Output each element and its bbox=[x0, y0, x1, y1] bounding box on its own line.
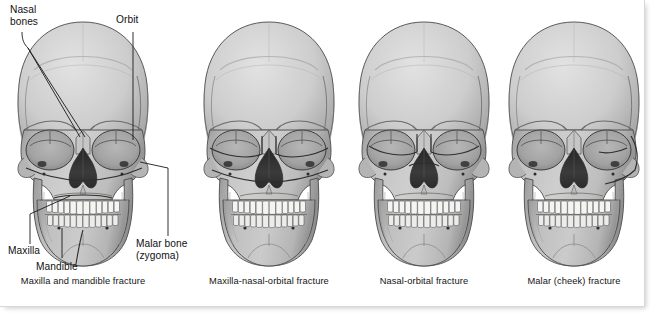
facial-fracture-figure: Maxilla and mandible fracture Maxilla-na… bbox=[0, 0, 661, 328]
panel-malar-cheek-fracture: Malar (cheek) fracture bbox=[495, 0, 653, 307]
panel-caption-3: Nasal-orbital fracture bbox=[345, 276, 503, 287]
panel-nasal-orbital-fracture: Nasal-orbital fracture bbox=[345, 0, 503, 307]
label-malar-bone-zygoma: Malar bone (zygoma) bbox=[136, 238, 187, 262]
label-orbit: Orbit bbox=[116, 14, 138, 26]
panel-caption-4: Malar (cheek) fracture bbox=[495, 276, 653, 287]
label-nasal-bones: Nasal bones bbox=[10, 4, 38, 28]
panel-caption-2: Maxilla-nasal-orbital fracture bbox=[190, 276, 348, 287]
skull-illustration-2 bbox=[190, 18, 348, 268]
skull-illustration-4 bbox=[495, 18, 653, 268]
skull-illustration-3 bbox=[345, 18, 503, 268]
skull-diagram bbox=[345, 18, 503, 268]
panel-caption-1: Maxilla and mandible fracture bbox=[4, 276, 162, 287]
label-mandible: Mandible bbox=[36, 261, 78, 273]
skull-diagram bbox=[495, 18, 653, 268]
skull-diagram bbox=[190, 18, 348, 268]
panel-maxilla-nasal-orbital-fracture: Maxilla-nasal-orbital fracture bbox=[190, 0, 348, 307]
label-maxilla: Maxilla bbox=[8, 245, 40, 257]
skull-illustration-1 bbox=[4, 18, 162, 268]
skull-diagram bbox=[4, 18, 162, 268]
